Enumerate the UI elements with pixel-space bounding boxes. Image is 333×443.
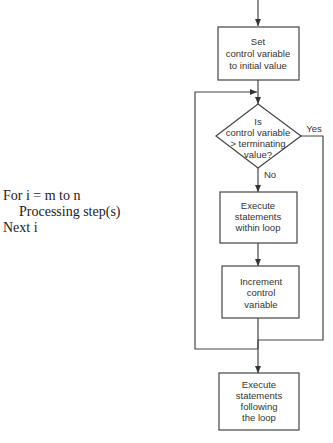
increment-box-line-3: variable [244,299,277,310]
decision-line-4: value? [244,149,272,160]
decision-line-3: > terminating [230,138,285,149]
init-box-line-2: control variable [226,48,290,59]
decision-line-2: control variable [226,127,290,138]
body-box-line-1: Execute [241,200,275,211]
increment-box-line-2: control [247,287,276,298]
init-box-line-1: Set [251,36,266,47]
body-box-line-2: statements [235,211,282,222]
for-loop-flowchart: Set control variable to initial value Is… [0,0,333,443]
yes-label: Yes [306,123,322,134]
no-label: No [264,169,276,180]
decision-line-1: Is [254,116,262,127]
exit-box-line-4: the loop [242,412,276,423]
exit-box-line-1: Execute [242,379,276,390]
exit-box-line-3: following [241,401,278,412]
body-box-line-3: within loop [235,222,281,233]
increment-box-line-1: Increment [240,276,283,287]
exit-box-line-2: statements [236,390,283,401]
init-box-line-3: to initial value [229,60,287,71]
